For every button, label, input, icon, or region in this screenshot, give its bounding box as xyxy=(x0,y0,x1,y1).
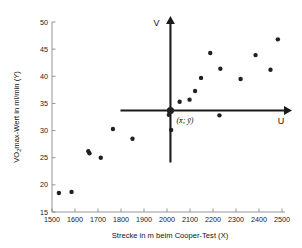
x-tick-label: 2300 xyxy=(228,215,244,224)
data-point xyxy=(238,77,242,81)
y-axis-title: VO2max-Wert in ml/min (Y) xyxy=(12,71,22,163)
data-point xyxy=(268,68,272,72)
v-axis-arrowhead xyxy=(166,16,175,24)
x-tick-label: 2100 xyxy=(182,215,198,224)
data-point xyxy=(276,37,280,41)
x-tick-label: 1700 xyxy=(90,215,106,224)
x-tick-label: 1900 xyxy=(136,215,152,224)
data-points-group xyxy=(57,37,280,195)
y-tick-label: 20 xyxy=(40,180,48,189)
y-tick-label: 15 xyxy=(40,208,48,217)
data-point xyxy=(169,128,173,132)
data-point xyxy=(199,76,203,80)
data-point xyxy=(218,66,222,70)
x-tick-label: 1600 xyxy=(67,215,83,224)
data-point xyxy=(217,113,221,117)
x-tick-label: 1800 xyxy=(113,215,129,224)
x-tick-label: 2200 xyxy=(205,215,221,224)
data-point xyxy=(99,156,103,160)
x-tick-label: 2400 xyxy=(251,215,267,224)
data-point xyxy=(57,191,61,195)
data-point xyxy=(208,51,212,55)
x-tick-label: 2000 xyxy=(159,215,175,224)
u-axis-arrowhead xyxy=(284,106,292,115)
uv-axis-group xyxy=(120,16,292,162)
data-point xyxy=(87,151,91,155)
centroid-marker xyxy=(167,107,174,114)
u-axis-label: U xyxy=(278,116,285,126)
y-axis-ticks: 1520253035404550 xyxy=(40,18,56,217)
y-tick-label: 35 xyxy=(40,99,48,108)
data-point xyxy=(177,100,181,104)
x-axis-ticks: 1500160017001800190020002100220023002400… xyxy=(44,209,290,225)
centroid-label: (x̄; ȳ) xyxy=(176,116,193,125)
data-point xyxy=(111,127,115,131)
data-point xyxy=(193,89,197,93)
v-axis-label: V xyxy=(153,18,159,28)
y-tick-label: 40 xyxy=(40,72,48,81)
y-tick-label: 25 xyxy=(40,153,48,162)
x-axis-title: Strecke in m beim Cooper-Test (X) xyxy=(112,231,229,240)
data-point xyxy=(69,190,73,194)
x-tick-label: 2500 xyxy=(274,215,290,224)
scatter-plot-figure: 1500160017001800190020002100220023002400… xyxy=(0,0,302,248)
y-tick-label: 45 xyxy=(40,45,48,54)
y-tick-label: 30 xyxy=(40,126,48,135)
data-point xyxy=(253,53,257,57)
data-point xyxy=(187,97,191,101)
y-tick-label: 50 xyxy=(40,18,48,27)
chart-canvas: 1500160017001800190020002100220023002400… xyxy=(0,0,302,248)
data-point xyxy=(130,137,134,141)
